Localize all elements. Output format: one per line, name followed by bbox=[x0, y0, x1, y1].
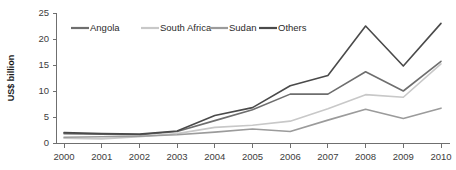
x-tick-label: 2007 bbox=[317, 151, 338, 162]
legend-item-sudan[interactable]: Sudan bbox=[210, 22, 256, 33]
legend-label: South Africa bbox=[160, 22, 212, 33]
chart-legend: AngolaSouth AfricaSudanOthers bbox=[71, 22, 307, 33]
x-tick-label: 2009 bbox=[393, 151, 414, 162]
legend-label: Angola bbox=[90, 22, 120, 33]
series-line-south-africa bbox=[64, 64, 441, 139]
x-tick-label: 2003 bbox=[167, 151, 188, 162]
series-line-angola bbox=[64, 61, 441, 134]
x-tick-label: 2008 bbox=[355, 151, 376, 162]
y-tick-label: 0 bbox=[44, 137, 49, 148]
legend-item-angola[interactable]: Angola bbox=[71, 22, 120, 33]
x-tick-label: 2002 bbox=[129, 151, 150, 162]
series-line-sudan bbox=[64, 108, 441, 137]
x-tick-marks bbox=[64, 144, 441, 148]
x-tick-label: 2004 bbox=[204, 151, 225, 162]
y-axis-title: US$ billion bbox=[6, 55, 16, 102]
legend-label: Sudan bbox=[229, 22, 256, 33]
line-chart: 0510152025 20002001200220032004200520062… bbox=[0, 0, 456, 170]
y-tick-marks bbox=[53, 13, 57, 143]
x-tick-label: 2006 bbox=[280, 151, 301, 162]
y-tick-label: 10 bbox=[38, 85, 49, 96]
x-tick-label: 2000 bbox=[53, 151, 74, 162]
y-tick-labels: 0510152025 bbox=[38, 7, 49, 148]
legend-item-south-africa[interactable]: South Africa bbox=[141, 22, 212, 33]
x-tick-label: 2010 bbox=[430, 151, 451, 162]
x-tick-label: 2005 bbox=[242, 151, 263, 162]
x-tick-labels: 2000200120022003200420052006200720082009… bbox=[53, 151, 451, 162]
y-tick-label: 25 bbox=[38, 7, 49, 18]
chart-canvas: 0510152025 20002001200220032004200520062… bbox=[0, 0, 456, 170]
y-tick-label: 5 bbox=[44, 111, 49, 122]
legend-label: Others bbox=[278, 22, 307, 33]
x-tick-label: 2001 bbox=[91, 151, 112, 162]
legend-item-others[interactable]: Others bbox=[259, 22, 307, 33]
y-tick-label: 15 bbox=[38, 59, 49, 70]
y-tick-label: 20 bbox=[38, 33, 49, 44]
series-line-others bbox=[64, 23, 441, 134]
series-lines bbox=[64, 23, 441, 138]
